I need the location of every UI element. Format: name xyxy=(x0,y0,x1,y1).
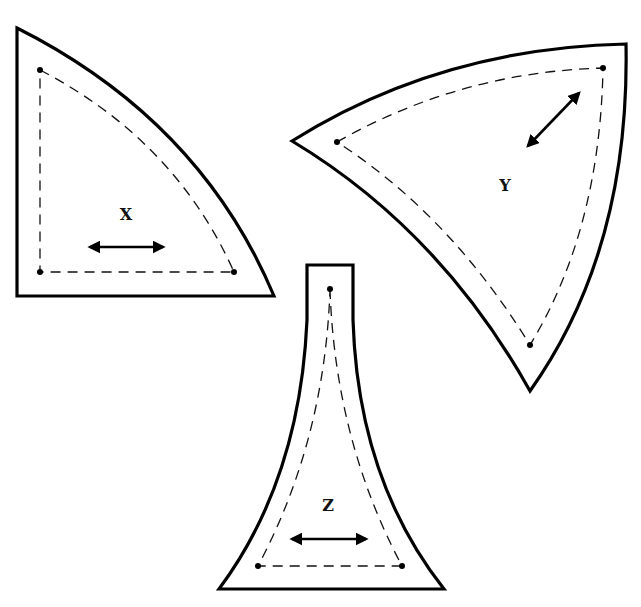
piece-z: Z xyxy=(219,265,444,589)
piece-x-corner-dot xyxy=(37,67,43,73)
piece-x-corner-dot xyxy=(231,269,237,275)
piece-x-label: X xyxy=(120,205,133,224)
piece-y-label: Y xyxy=(498,176,511,195)
piece-x: X xyxy=(17,28,274,296)
piece-z-label: Z xyxy=(322,496,334,515)
piece-x-outline xyxy=(17,28,274,296)
piece-z-corner-dot xyxy=(327,286,333,292)
piece-y-corner-dot xyxy=(600,65,606,71)
piece-x-corner-dot xyxy=(37,269,43,275)
piece-y-corner-dot xyxy=(527,342,533,348)
piece-z-corner-dot xyxy=(255,563,261,569)
piece-y-corner-dot xyxy=(334,139,340,145)
piece-z-corner-dot xyxy=(399,563,405,569)
pattern-diagram: X Y Z xyxy=(0,0,641,607)
